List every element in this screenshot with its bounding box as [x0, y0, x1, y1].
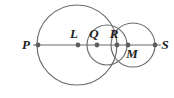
point-dot-p: [36, 43, 41, 48]
point-dot-r: [115, 43, 120, 48]
figure-canvas: P L Q R M S: [0, 0, 174, 98]
point-label-r: R: [109, 26, 119, 41]
point-dot-s: [153, 43, 158, 48]
geometry-figure: P L Q R M S: [0, 0, 174, 98]
point-label-l: L: [69, 26, 78, 41]
point-dot-q: [95, 43, 100, 48]
point-label-m: M: [125, 46, 138, 61]
point-label-q: Q: [89, 26, 99, 41]
point-dot-l: [76, 43, 81, 48]
point-label-p: P: [22, 37, 31, 52]
point-label-s: S: [161, 37, 168, 52]
